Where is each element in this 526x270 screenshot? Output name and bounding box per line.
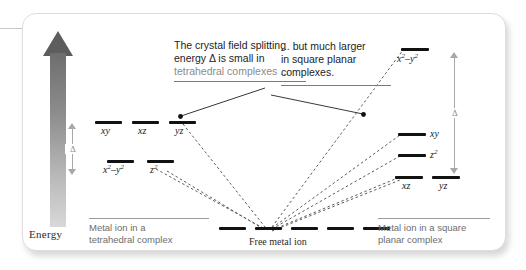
level-tetrahedral-xz	[132, 121, 159, 124]
delta-symbol-square-planar: Δ	[447, 108, 463, 118]
level-tetrahedral-xy	[95, 121, 122, 124]
energy-arrow-shaft	[50, 53, 66, 227]
diagram-plot-area: Energy Δ Δ	[23, 14, 505, 250]
orbital-label-tetrahedral-yz: yz	[175, 125, 183, 136]
correlation-line-sq-xy	[272, 135, 400, 228]
callout-rule-square-planar	[281, 85, 391, 86]
leader-dot-tetrahedral-note	[178, 114, 183, 119]
caption-rule-square-planar	[378, 218, 490, 219]
leader-dot-square-planar-note	[361, 112, 366, 117]
level-square-planar-xz	[395, 176, 423, 179]
level-free-ion-4	[327, 227, 354, 230]
delta-arrow-square-planar: Δ	[447, 52, 463, 174]
callout-square-planar-line2: in square planar	[281, 53, 401, 66]
orbital-label-tetrahedral-xz: xz	[138, 125, 146, 136]
caption-tetrahedral-line2: tetrahedral complex	[89, 234, 219, 246]
orbital-label-square-planar-z2: z2	[430, 149, 437, 160]
level-tetrahedral-z2	[147, 160, 174, 163]
level-square-planar-z2	[398, 154, 426, 157]
correlation-line-tet-lower-a	[156, 169, 265, 229]
leader-line-tetrahedral-note	[181, 88, 265, 116]
callout-rule-tetrahedral	[174, 81, 306, 82]
figure-root: Energy Δ Δ	[0, 0, 526, 270]
orbital-label-tetrahedral-xy: xy	[101, 125, 110, 136]
orbital-label-tetrahedral-z2: z2	[150, 164, 157, 175]
orbital-label-square-planar-yz: yz	[439, 180, 447, 191]
caption-rule-tetrahedral	[89, 218, 209, 219]
level-free-ion-1	[219, 227, 246, 230]
level-square-planar-xy	[398, 133, 426, 136]
leader-line-square-planar-note	[271, 95, 363, 114]
level-tetrahedral-yz	[169, 121, 196, 124]
orbital-label-tetrahedral-x2-y2: x2–y2	[103, 164, 124, 175]
callout-square-planar-line1: ... but much larger	[281, 40, 401, 53]
callout-square-planar-line3: complexes.	[281, 66, 401, 79]
level-square-planar-x2-y2	[401, 48, 429, 51]
caption-square-planar-line2: planar complex	[378, 234, 506, 246]
figure-card: Energy Δ Δ	[22, 13, 506, 251]
orbital-label-square-planar-xy: xy	[430, 128, 439, 139]
delta-arrow-down-head-icon	[68, 169, 76, 175]
delta-arrow-down-head-icon	[450, 168, 458, 174]
orbital-label-square-planar-xz: xz	[402, 180, 410, 191]
correlation-line-tet-upper	[183, 124, 265, 227]
caption-free-metal-ion: Free metal ion	[249, 236, 307, 247]
caption-square-planar-line1: Metal ion in a square	[378, 222, 506, 234]
delta-arrow-tetrahedral: Δ	[65, 123, 81, 175]
level-square-planar-yz	[432, 176, 460, 179]
delta-symbol-tetrahedral: Δ	[65, 144, 81, 154]
caption-tetrahedral-line1: Metal ion in a	[89, 222, 219, 234]
level-free-ion-3	[291, 227, 318, 230]
level-free-ion-2	[255, 227, 282, 230]
